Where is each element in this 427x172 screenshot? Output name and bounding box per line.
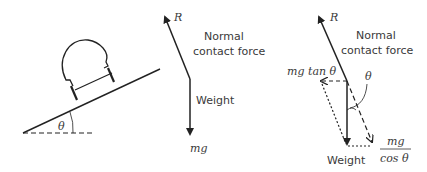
car-object bbox=[62, 40, 114, 100]
normal-label-line2: contact force bbox=[193, 45, 266, 58]
angle-label-right: θ bbox=[365, 70, 372, 83]
cos-component-arrow bbox=[347, 81, 372, 142]
weight-label: Weight bbox=[196, 94, 235, 107]
force-diagram: θ R Normal contact force Weight mg θ R N… bbox=[0, 0, 427, 172]
forces-diagram: R Normal contact force Weight mg bbox=[165, 11, 266, 155]
slope-diagram: θ bbox=[23, 40, 160, 133]
normal-label-line1: Normal bbox=[204, 30, 244, 43]
normal-label-right-line1: Normal bbox=[356, 29, 396, 42]
slope-line bbox=[23, 69, 160, 133]
tan-component-label: mg tan θ bbox=[287, 65, 337, 78]
normal-label-right-line2: contact force bbox=[341, 44, 414, 57]
reaction-label: R bbox=[173, 11, 182, 24]
fraction-numerator: mg bbox=[387, 135, 404, 148]
angle-arc bbox=[70, 112, 73, 133]
reaction-arrow bbox=[165, 17, 190, 79]
angle-arc-right bbox=[347, 108, 356, 110]
fraction-denominator: cos θ bbox=[380, 152, 409, 165]
reaction-label-right: R bbox=[329, 11, 338, 24]
resolved-forces-diagram: θ R Normal contact force mg tan θ Weight… bbox=[287, 11, 414, 167]
angle-label: θ bbox=[58, 120, 65, 133]
mg-label: mg bbox=[190, 142, 207, 155]
dotted-parallel-line bbox=[322, 84, 346, 144]
weight-label-right: Weight bbox=[327, 154, 366, 167]
angle-pointer bbox=[350, 84, 367, 108]
